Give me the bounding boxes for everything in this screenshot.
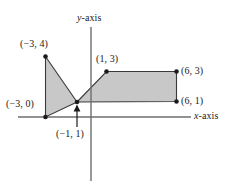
point-label-6-1: (6, 1) [181, 95, 203, 106]
point-label-neg3-4: (−3, 4) [20, 38, 48, 49]
point-dot-neg3-4 [43, 54, 48, 59]
point-label-6-3: (6, 3) [181, 65, 203, 76]
callout-arrow-neg1-1 [74, 105, 81, 128]
y-axis-label-rest: -axis [82, 12, 102, 23]
x-axis-label-rest: -axis [199, 110, 219, 121]
point-label-1-3: (1, 3) [96, 53, 118, 64]
coordinate-plane-figure: x-axis y-axis (−3, 4) (−3, 0) (−1, 1) (1… [0, 0, 232, 189]
point-dot-neg3-0 [43, 115, 48, 120]
point-label-neg3-0: (−3, 0) [6, 98, 34, 109]
shaded-quadrilateral-region [77, 72, 177, 103]
point-dot-1-3 [104, 69, 109, 74]
point-label-neg1-1: (−1, 1) [56, 128, 84, 139]
point-dot-neg1-1 [75, 100, 80, 105]
point-dot-6-1 [174, 99, 179, 104]
shaded-triangle-region [46, 57, 78, 118]
point-dot-6-3 [174, 69, 179, 74]
y-axis-label: y-axis [77, 12, 102, 23]
x-axis-label: x-axis [194, 110, 219, 121]
